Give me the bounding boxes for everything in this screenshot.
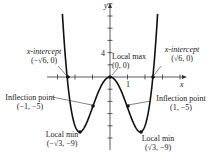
graph xyxy=(0,0,218,152)
local-min-left-label: Local min (−√3, −9) xyxy=(42,130,82,148)
x-tick-label: 1 xyxy=(126,80,130,89)
xint-right-label: x-intercept (√6, 0) xyxy=(160,45,204,63)
local-min-right-label: Local min (√3, −9) xyxy=(140,134,176,152)
inflection-left-label: Inflection point (−1, −5) xyxy=(2,93,58,111)
x-axis-label: x xyxy=(180,80,184,89)
key-points xyxy=(66,75,155,134)
x-axis-arrow-icon xyxy=(182,75,187,79)
inflection-right-label: Inflection point (1, −5) xyxy=(152,94,210,112)
local-max-label: Local max (0, 0) xyxy=(112,52,146,70)
y-tick-label: 4 xyxy=(101,49,105,58)
xint-left-label: x-intercept (−√6, 0) xyxy=(22,47,66,65)
axis-ticks xyxy=(58,4,181,138)
y-axis-label: y xyxy=(104,1,108,10)
